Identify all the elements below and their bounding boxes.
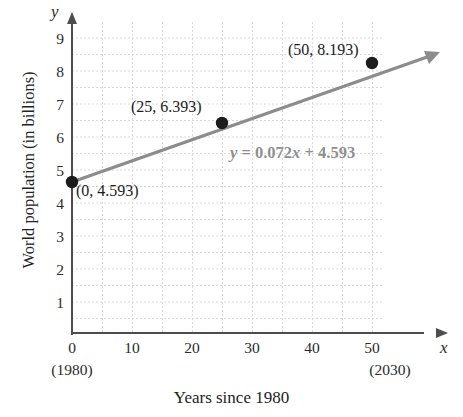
y-tick-label-2: 2 — [44, 262, 64, 278]
x-tick-note-2030: (2030) — [345, 362, 435, 378]
y-axis-title: World population (in billions) — [19, 20, 39, 320]
x-tick-label-10: 10 — [112, 340, 152, 356]
y-tick-label-4: 4 — [44, 196, 64, 212]
x-axis-symbol: x — [440, 339, 448, 356]
x-tick-label-0: 0 — [52, 340, 92, 356]
y-tick-label-5: 5 — [44, 163, 64, 179]
plot-area — [72, 22, 383, 333]
y-tick-label-1: 1 — [44, 295, 64, 311]
data-point-label-2: (50, 8.193) — [288, 42, 359, 58]
y-axis-symbol: y — [51, 3, 59, 20]
y-tick-label-9: 9 — [44, 31, 64, 47]
x-axis-arrowhead — [436, 328, 448, 338]
y-tick-label-6: 6 — [44, 130, 64, 146]
y-tick-label-8: 8 — [44, 64, 64, 80]
y-tick-label-7: 7 — [44, 97, 64, 113]
grid-lines — [72, 22, 383, 333]
x-tick-label-50: 50 — [352, 340, 392, 356]
x-tick-label-40: 40 — [292, 340, 332, 356]
x-tick-label-30: 30 — [232, 340, 272, 356]
data-point-label-1: (25, 6.393) — [131, 99, 202, 115]
x-axis-line — [72, 332, 424, 334]
trend-line-arrowhead — [424, 51, 440, 64]
data-point-label-0: (0, 4.593) — [76, 183, 139, 199]
y-axis-line — [71, 18, 73, 335]
x-axis-title: Years since 1980 — [0, 388, 463, 408]
equation-annotation: y = 0.072x + 4.593 — [230, 145, 355, 162]
equation-rhs-part: + 4.593 — [300, 143, 355, 162]
x-tick-label-20: 20 — [172, 340, 212, 356]
chart-figure: 9 8 7 6 5 4 3 2 1 0 10 20 30 40 50 (1980… — [0, 0, 463, 417]
y-tick-label-3: 3 — [44, 229, 64, 245]
equation-eq-part: = 0.072 — [237, 143, 292, 162]
x-tick-note-1980: (1980) — [27, 362, 117, 378]
